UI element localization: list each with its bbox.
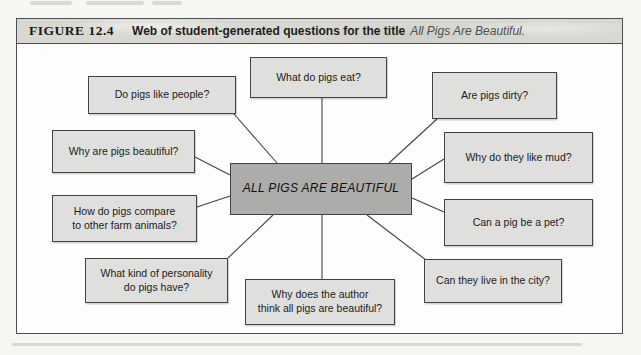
center-node-all-pigs-are-beautiful: ALL PIGS ARE BEAUTIFUL [230, 163, 412, 215]
connector-line [367, 215, 426, 260]
question-node-can-a-pig-be-a-pet: Can a pig be a pet? [444, 199, 593, 246]
diagram-layer: What do pigs eat?Do pigs like people?Are… [0, 0, 641, 355]
scanned-page: FIGURE 12.4 Web of student-generated que… [0, 0, 641, 355]
question-node-do-pigs-like-people: Do pigs like people? [88, 76, 236, 114]
question-node-what-do-pigs-eat: What do pigs eat? [250, 57, 387, 98]
connector-line [234, 114, 277, 163]
connector-line [197, 196, 230, 207]
question-node-how-do-pigs-compare: How do pigs compare to other farm animal… [52, 195, 197, 242]
page-edge-shadow [12, 343, 582, 346]
connector-line [228, 215, 273, 258]
question-node-why-are-pigs-beautiful: Why are pigs beautiful? [52, 130, 195, 173]
connector-line [412, 198, 444, 212]
connector-line [195, 157, 230, 175]
question-node-can-they-live-in-the-city: Can they live in the city? [424, 259, 562, 303]
question-node-why-do-they-like-mud: Why do they like mud? [444, 132, 593, 183]
question-node-are-pigs-dirty: Are pigs dirty? [432, 72, 557, 119]
question-node-what-kind-of-personality: What kind of personality do pigs have? [85, 258, 228, 303]
connector-line [389, 119, 437, 163]
connector-line [412, 159, 444, 179]
question-node-why-does-the-author: Why does the author think all pigs are b… [245, 279, 395, 325]
